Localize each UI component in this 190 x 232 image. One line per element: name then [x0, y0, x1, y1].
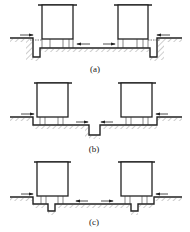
- soil-hatch: [10, 197, 33, 201]
- foundation-piers-left: [42, 39, 73, 48]
- soil-hatch: [157, 117, 182, 121]
- panel-caption: (b): [89, 144, 100, 154]
- tank-left: [37, 162, 68, 196]
- foundation-drainage-diagram: (a) (b): [0, 0, 190, 232]
- soil-hatch: [48, 211, 55, 215]
- tank-left: [42, 5, 73, 39]
- soil-hatch: [33, 204, 48, 208]
- soil-hatch: [40, 48, 150, 52]
- soil-hatch: [26, 42, 33, 60]
- soil-hatch: [157, 38, 182, 42]
- soil-hatch: [89, 135, 100, 139]
- soil-hatch: [154, 197, 182, 201]
- foundation-piers-right: [118, 39, 148, 48]
- foundation-piers-left: [41, 196, 63, 204]
- soil-hatch: [85, 129, 89, 137]
- panel-caption: (a): [90, 64, 100, 74]
- soil-hatch: [10, 38, 33, 42]
- panel-c: (c): [10, 162, 182, 227]
- foundation-piers-right: [126, 117, 148, 125]
- panel-caption: (c): [89, 217, 99, 227]
- soil-hatch: [157, 42, 164, 60]
- tank-left: [37, 83, 68, 117]
- soil-hatch: [10, 117, 33, 121]
- soil-hatch: [138, 204, 154, 208]
- foundation-piers-right: [125, 196, 147, 204]
- panel-a: (a): [10, 5, 182, 74]
- tank-right: [121, 162, 152, 196]
- ground-profile: [10, 38, 182, 57]
- soil-hatch: [131, 211, 138, 215]
- soil-hatch: [33, 57, 40, 61]
- soil-hatch: [100, 125, 157, 129]
- tank-right: [121, 83, 152, 117]
- panel-b: (b): [10, 83, 182, 154]
- tank-right: [118, 5, 148, 39]
- soil-hatch: [150, 57, 157, 61]
- soil-hatch: [33, 125, 89, 129]
- foundation-piers-left: [40, 117, 63, 125]
- soil-hatch: [55, 204, 131, 208]
